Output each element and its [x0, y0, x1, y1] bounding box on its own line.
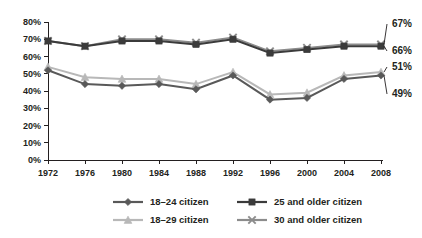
- x-tick-label: 2000: [297, 168, 317, 178]
- data-point-square: [304, 47, 310, 53]
- data-point-square: [193, 41, 199, 47]
- y-tick-label: 40%: [23, 86, 41, 96]
- chart-container: 80%70%60%50%40%30%20%10%0% 1972197619801…: [0, 0, 422, 238]
- end-value-label: 67%: [392, 18, 412, 29]
- legend-item-label: 18–29 citizen: [150, 214, 209, 225]
- data-point-square: [45, 38, 51, 44]
- series-diamond: [44, 67, 384, 104]
- series-layer: [44, 34, 385, 103]
- y-tick-label: 80%: [23, 17, 41, 27]
- data-point-square: [378, 43, 384, 49]
- data-point-square: [267, 50, 273, 56]
- data-point-square: [341, 43, 347, 49]
- legend-item-label: 18–24 citizen: [150, 196, 209, 207]
- y-tick-label: 20%: [23, 121, 41, 131]
- x-tick-label: 1976: [75, 168, 95, 178]
- legend-item[interactable]: 30 and older citizen: [237, 214, 362, 225]
- series-line: [48, 70, 381, 99]
- x-tick-label: 1980: [112, 168, 132, 178]
- x-tick-label: 1972: [38, 168, 58, 178]
- x-axis: 1972197619801984198819921996200020042008: [38, 160, 391, 178]
- y-tick-label: 0%: [28, 155, 41, 165]
- data-point-diamond: [124, 198, 131, 205]
- data-point-square: [119, 38, 125, 44]
- legend-item[interactable]: 18–24 citizen: [113, 196, 209, 207]
- x-tick-label: 2004: [334, 168, 354, 178]
- legend-item[interactable]: 25 and older citizen: [237, 196, 362, 207]
- y-tick-label: 10%: [23, 138, 41, 148]
- data-point-square: [249, 199, 255, 205]
- x-tick-label: 1984: [149, 168, 169, 178]
- series-triangle: [44, 63, 385, 98]
- y-axis: 80%70%60%50%40%30%20%10%0%: [23, 17, 48, 165]
- y-tick-label: 50%: [23, 69, 41, 79]
- line-chart: 80%70%60%50%40%30%20%10%0% 1972197619801…: [0, 0, 422, 238]
- legend-item-label: 25 and older citizen: [274, 196, 362, 207]
- y-tick-label: 30%: [23, 103, 41, 113]
- series-line: [48, 67, 381, 95]
- leader-line: [384, 67, 387, 72]
- x-tick-label: 1996: [260, 168, 280, 178]
- legend-item[interactable]: 18–29 citizen: [113, 214, 209, 225]
- leader-line: [384, 75, 387, 94]
- leader-line: [384, 46, 387, 51]
- end-value-label: 66%: [392, 45, 412, 56]
- chart-legend: 18–24 citizen25 and older citizen18–29 c…: [113, 196, 362, 225]
- end-labels: 67%66%51%49%: [384, 18, 412, 99]
- end-value-label: 51%: [392, 61, 412, 72]
- data-point-square: [156, 38, 162, 44]
- y-tick-label: 70%: [23, 34, 41, 44]
- x-tick-label: 1988: [186, 168, 206, 178]
- data-point-diamond: [81, 81, 88, 88]
- data-point-square: [82, 43, 88, 49]
- leader-line: [384, 24, 387, 44]
- end-value-label: 49%: [392, 88, 412, 99]
- x-tick-label: 1992: [223, 168, 243, 178]
- legend-item-label: 30 and older citizen: [274, 214, 362, 225]
- x-tick-label: 2008: [371, 168, 391, 178]
- y-tick-label: 60%: [23, 52, 41, 62]
- data-point-diamond: [118, 82, 125, 89]
- data-point-square: [230, 36, 236, 42]
